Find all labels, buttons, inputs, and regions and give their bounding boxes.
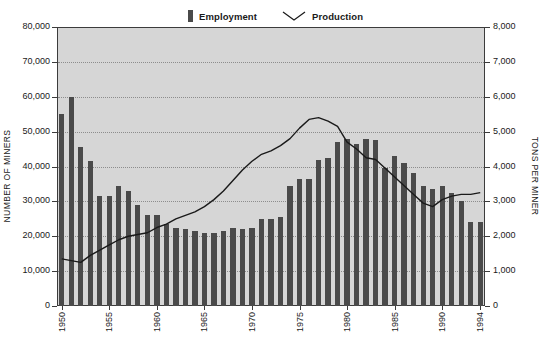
x-tick-label: 1960 — [152, 312, 162, 332]
left-tick-label: 70,000 — [4, 56, 50, 66]
right-tick-mark — [485, 306, 490, 307]
left-tick-label: 60,000 — [4, 91, 50, 101]
x-tick-label: 1965 — [199, 312, 209, 332]
left-tick-label: 80,000 — [4, 21, 50, 31]
x-tick-mark — [62, 306, 63, 310]
x-tick-mark — [300, 306, 301, 310]
x-tick-label: 1985 — [390, 312, 400, 332]
x-tick-mark — [252, 306, 253, 310]
left-tick-mark — [52, 167, 57, 168]
plot-area — [57, 27, 485, 306]
right-tick-label: 4,000 — [493, 161, 516, 171]
left-tick-mark — [52, 201, 57, 202]
right-tick-label: 8,000 — [493, 21, 516, 31]
right-tick-mark — [485, 132, 490, 133]
x-tick-label: 1970 — [247, 312, 257, 332]
right-tick-mark — [485, 97, 490, 98]
legend-item-employment: Employment — [188, 10, 257, 22]
right-tick-label: 5,000 — [493, 126, 516, 136]
left-tick-mark — [52, 306, 57, 307]
x-tick-label: 1950 — [57, 312, 67, 332]
right-axis-title: TONS PER MINER — [530, 136, 540, 215]
right-tick-label: 3,000 — [493, 195, 516, 205]
production-line — [62, 118, 480, 263]
x-tick-mark — [442, 306, 443, 310]
legend-item-production: Production — [282, 10, 363, 22]
left-tick-label: 0 — [4, 300, 50, 310]
x-tick-label: 1980 — [342, 312, 352, 332]
x-tick-label: 1955 — [104, 312, 114, 332]
x-tick-label: 1975 — [295, 312, 305, 332]
right-tick-mark — [485, 236, 490, 237]
left-axis-title: NUMBER OF MINERS — [2, 129, 12, 222]
right-tick-mark — [485, 271, 490, 272]
right-tick-mark — [485, 167, 490, 168]
left-tick-mark — [52, 97, 57, 98]
right-tick-mark — [485, 27, 490, 28]
chart-title — [0, 0, 540, 3]
coal-mining-chart: Employment Production 010,00020,00030,00… — [0, 0, 540, 351]
left-tick-label: 20,000 — [4, 230, 50, 240]
right-tick-label: 6,000 — [493, 91, 516, 101]
x-tick-mark — [109, 306, 110, 310]
left-tick-mark — [52, 236, 57, 237]
bar-swatch-icon — [188, 10, 193, 22]
x-tick-mark — [204, 306, 205, 310]
line-swatch-icon — [282, 10, 306, 22]
chart-legend: Employment Production — [0, 10, 540, 26]
right-tick-label: 7,000 — [493, 56, 516, 66]
x-tick-label: 1990 — [437, 312, 447, 332]
x-tick-mark — [347, 306, 348, 310]
x-tick-mark — [395, 306, 396, 310]
x-tick-mark — [480, 306, 481, 310]
line-series-production — [57, 27, 485, 306]
right-tick-mark — [485, 201, 490, 202]
left-tick-mark — [52, 62, 57, 63]
x-tick-label: 1994 — [475, 312, 485, 332]
legend-label-production: Production — [312, 11, 363, 22]
left-tick-mark — [52, 271, 57, 272]
right-tick-mark — [485, 62, 490, 63]
right-tick-label: 2,000 — [493, 230, 516, 240]
right-tick-label: 1,000 — [493, 265, 516, 275]
legend-label-employment: Employment — [199, 11, 257, 22]
x-tick-mark — [157, 306, 158, 310]
left-tick-mark — [52, 27, 57, 28]
right-tick-label: 0 — [493, 300, 498, 310]
left-tick-mark — [52, 132, 57, 133]
left-tick-label: 10,000 — [4, 265, 50, 275]
